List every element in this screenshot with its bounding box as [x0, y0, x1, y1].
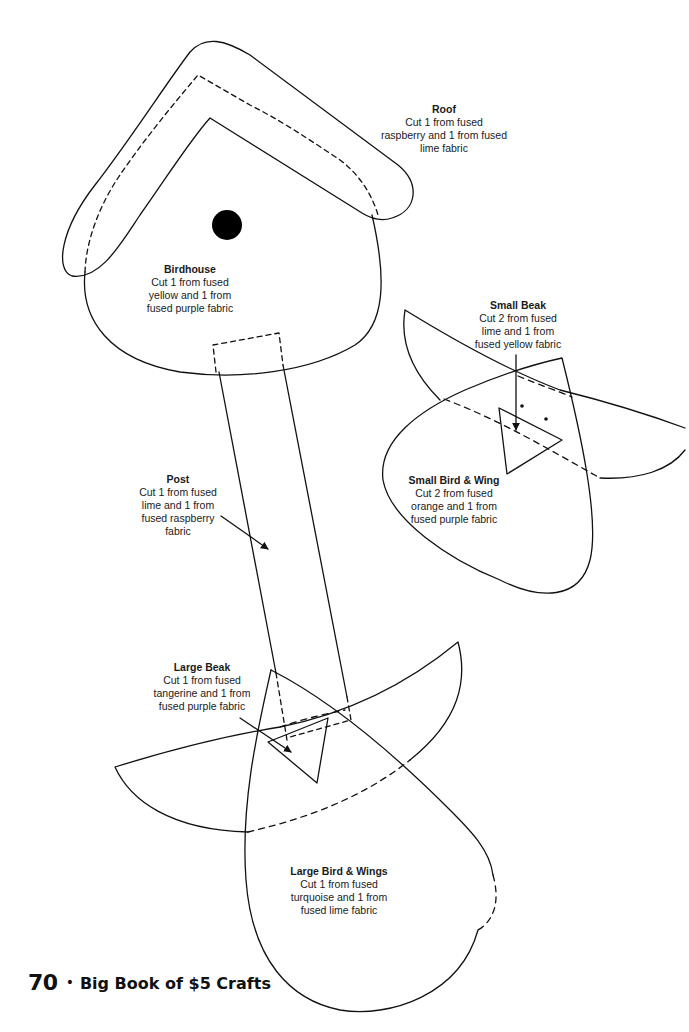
- large-beak-arrow: [240, 718, 291, 752]
- book-title: Big Book of $5 Crafts: [80, 974, 271, 993]
- post-left-edge: [219, 372, 276, 673]
- large-bird-wings-title: Large Bird & Wings: [290, 865, 387, 878]
- birdhouse-title: Birdhouse: [147, 263, 233, 276]
- large-beak-title: Large Beak: [154, 661, 251, 674]
- bullet-separator: •: [66, 974, 74, 990]
- large-beak-label: Large Beak Cut 1 from fused tangerine an…: [154, 661, 251, 713]
- small-beak-outline: [499, 408, 562, 474]
- roof-label: Roof Cut 1 from fused raspberry and 1 fr…: [381, 103, 507, 155]
- roof-outline: [63, 41, 414, 276]
- birdhouse-hole: [212, 210, 242, 240]
- small-beak-title: Small Beak: [475, 299, 561, 312]
- post-top-dashed: [213, 333, 283, 372]
- birdhouse-label: Birdhouse Cut 1 from fused yellow and 1 …: [147, 263, 233, 315]
- page-number: 70: [28, 970, 58, 995]
- page-footer: 70•Big Book of $5 Crafts: [28, 970, 271, 995]
- small-bird-wing-title: Small Bird & Wing: [409, 474, 500, 487]
- post-right-edge: [283, 365, 347, 697]
- large-bird-outline: [245, 670, 478, 1012]
- post-title: Post: [139, 473, 217, 486]
- small-wing-seam-dashed: [444, 376, 600, 478]
- post-arrow: [221, 516, 268, 549]
- large-bird-back-dashed: [478, 875, 496, 930]
- small-bird-wing-label: Small Bird & Wing Cut 2 from fused orang…: [409, 474, 500, 526]
- post-label: Post Cut 1 from fused lime and 1 from fu…: [139, 473, 217, 538]
- roof-title: Roof: [381, 103, 507, 116]
- post-bottom-dashed: [276, 673, 351, 740]
- small-beak-label: Small Beak Cut 2 from fused lime and 1 f…: [475, 299, 561, 351]
- roof-seam-dashed: [85, 75, 378, 272]
- large-bird-wings-label: Large Bird & Wings Cut 1 from fused turq…: [290, 865, 387, 917]
